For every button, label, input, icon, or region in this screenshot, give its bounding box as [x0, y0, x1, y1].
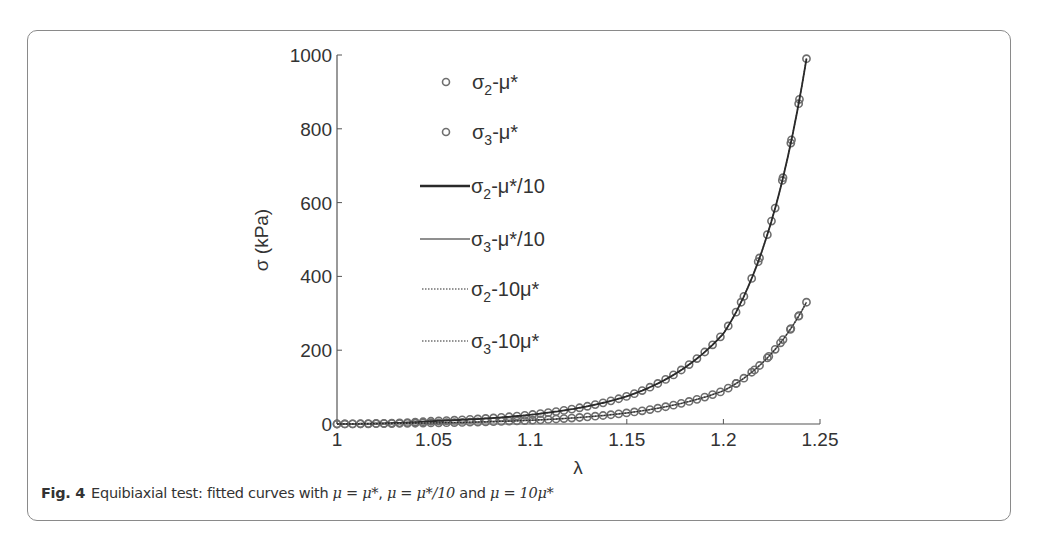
x-tick-label: 1.1 — [517, 429, 543, 450]
legend: σ2-μ*σ3-μ*σ2-μ*/10σ3-μ*/10σ2-10μ*σ3-10μ* — [420, 71, 545, 357]
legend-item: σ2-μ*/10 — [420, 175, 545, 202]
caption-math-1: μ = μ* — [333, 485, 379, 501]
caption-separator: , — [378, 485, 387, 501]
y-tick-label: 1000 — [290, 45, 332, 66]
legend-item: σ2-10μ* — [422, 278, 540, 305]
y-tick-label: 400 — [300, 266, 332, 287]
legend-label: σ3-μ*/10 — [471, 228, 545, 255]
circle-marker-icon — [443, 129, 450, 136]
figure-label: Fig. 4 — [41, 485, 85, 501]
caption-separator: and — [455, 485, 490, 501]
x-tick-label: 1 — [332, 429, 343, 450]
caption-text: Equibiaxial test: fitted curves with — [91, 485, 332, 501]
caption-math-2: μ = μ*/10 — [387, 485, 455, 501]
circle-marker-icon — [443, 79, 450, 86]
legend-item: σ3-μ*/10 — [420, 228, 545, 255]
axes: 0200400600800100011.051.11.151.21.25 — [290, 45, 839, 450]
x-tick-label: 1.2 — [710, 429, 736, 450]
legend-label: σ2-μ* — [472, 71, 518, 98]
x-tick-label: 1.15 — [608, 429, 645, 450]
legend-label: σ3-10μ* — [471, 330, 540, 357]
curve-sigma2-10mu — [337, 59, 807, 424]
x-tick-label: 1.05 — [415, 429, 452, 450]
legend-label: σ2-μ*/10 — [471, 175, 545, 202]
x-tick-label: 1.25 — [802, 429, 839, 450]
legend-item: σ3-10μ* — [422, 330, 540, 357]
legend-item: σ3-μ* — [443, 121, 519, 148]
legend-label: σ3-μ* — [472, 121, 518, 148]
legend-label: σ2-10μ* — [471, 278, 540, 305]
y-tick-label: 600 — [300, 193, 332, 214]
curves — [333, 55, 810, 428]
y-axis-label: σ (kPa) — [251, 209, 272, 271]
figure-caption: Fig. 4Equibiaxial test: fitted curves wi… — [41, 485, 554, 501]
y-tick-label: 200 — [300, 340, 332, 361]
legend-item: σ2-μ* — [443, 71, 519, 98]
stress-stretch-chart: 0200400600800100011.051.11.151.21.25 σ2-… — [0, 0, 1061, 549]
y-tick-label: 0 — [321, 414, 332, 435]
x-axis-label: λ — [573, 457, 583, 478]
caption-math-3: μ = 10μ* — [490, 485, 554, 501]
curve-sigma2-mu-over-10 — [337, 59, 807, 424]
y-tick-label: 800 — [300, 119, 332, 140]
